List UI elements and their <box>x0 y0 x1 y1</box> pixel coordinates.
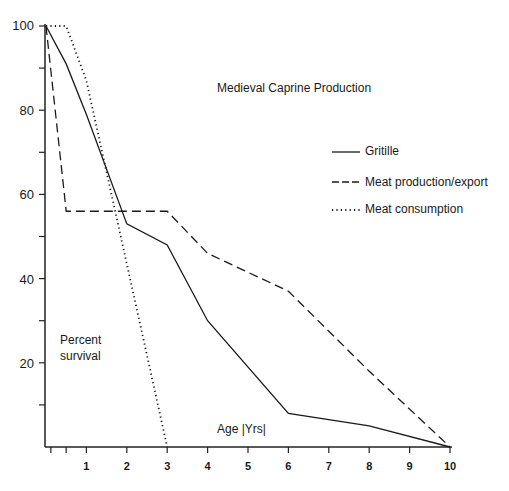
x-tick-label: 4 <box>198 460 218 472</box>
legend-label-meat-production: Meat production/export <box>365 175 488 189</box>
y-tick-20: 20 <box>0 356 34 371</box>
legend-label-meat-consumption: Meat consumption <box>365 202 463 216</box>
x-tick-label: 9 <box>400 460 420 472</box>
y-axis-label-line1: Percent <box>60 333 101 347</box>
x-tick-label: 8 <box>359 460 379 472</box>
y-tick-100: 100 <box>0 18 34 33</box>
y-tick-60: 60 <box>0 187 34 202</box>
legend-label-gritille: Gritille <box>365 144 399 158</box>
y-tick-40: 40 <box>0 272 34 287</box>
chart-title: Medieval Caprine Production <box>217 81 371 95</box>
x-tick-label: 7 <box>319 460 339 472</box>
x-tick-label: 2 <box>117 460 137 472</box>
x-tick-label: 6 <box>278 460 298 472</box>
y-axis-label-line2: survival <box>60 349 101 363</box>
chart-canvas <box>0 0 509 491</box>
x-tick-label: 5 <box>238 460 258 472</box>
line-meat-consumption <box>46 26 167 447</box>
x-tick-label: 3 <box>157 460 177 472</box>
x-tick-label: 10 <box>440 460 460 472</box>
x-axis-label: Age |Yrs| <box>217 422 266 436</box>
y-tick-80: 80 <box>0 103 34 118</box>
x-tick-label: 1 <box>76 460 96 472</box>
